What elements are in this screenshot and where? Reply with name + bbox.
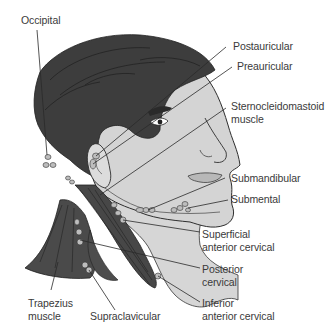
label-sternocleidomastoid-line1: Sternocleidomastoid <box>231 100 324 113</box>
label-submandibular-text: Submandibular <box>231 172 300 184</box>
label-submental-text: Submental <box>231 193 280 205</box>
label-posterior-cervical: Posterior cervical <box>202 263 243 289</box>
label-posterior-cervical-line2: cervical <box>202 276 243 289</box>
label-posterior-cervical-line1: Posterior <box>202 263 243 276</box>
label-preauricular-text: Preauricular <box>237 60 292 72</box>
label-superficial-anterior-cervical-line1: Superficial <box>202 228 274 241</box>
label-inferior-anterior-cervical-line2: anterior cervical <box>202 310 274 323</box>
label-postauricular-text: Postauricular <box>233 40 293 52</box>
label-superficial-anterior-cervical-line2: anterior cervical <box>202 241 274 254</box>
label-submental: Submental <box>231 193 280 206</box>
lymph-node-diagram: Occipital Postauricular Preauricular Ste… <box>0 0 333 332</box>
label-supraclavicular-text: Supraclavicular <box>90 310 160 322</box>
label-occipital-text: Occipital <box>21 14 60 26</box>
label-inferior-anterior-cervical-line1: Inferior <box>202 297 274 310</box>
label-preauricular: Preauricular <box>237 60 292 73</box>
label-occipital: Occipital <box>21 14 60 27</box>
label-sternocleidomastoid-line2: muscle <box>231 113 324 126</box>
label-inferior-anterior-cervical: Inferior anterior cervical <box>202 297 274 323</box>
label-superficial-anterior-cervical: Superficial anterior cervical <box>202 228 274 254</box>
label-submandibular: Submandibular <box>231 172 300 185</box>
label-sternocleidomastoid: Sternocleidomastoid muscle <box>231 100 324 126</box>
label-postauricular: Postauricular <box>233 40 293 53</box>
label-supraclavicular: Supraclavicular <box>90 310 160 323</box>
label-trapezius-line1: Trapezius <box>28 297 73 310</box>
label-trapezius-line2: muscle <box>28 310 73 323</box>
label-trapezius: Trapezius muscle <box>28 297 73 323</box>
